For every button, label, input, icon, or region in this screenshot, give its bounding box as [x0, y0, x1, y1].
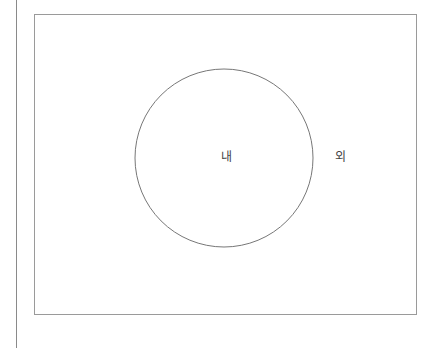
venn-diagram: [0, 0, 440, 348]
inside-label: 내: [221, 151, 232, 163]
outside-label: 외: [335, 151, 346, 163]
universal-set-frame: [35, 15, 417, 315]
